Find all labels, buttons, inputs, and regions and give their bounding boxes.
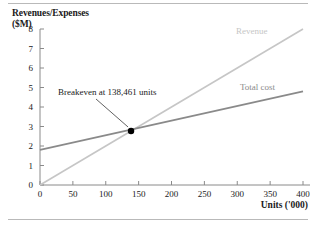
plot-area: 012345678050100150200250300350400Revenue… (0, 0, 316, 230)
breakeven-annotation-label: Breakeven at 138,461 units (58, 87, 157, 97)
y-axis-tick-label: 7 (29, 44, 34, 54)
x-axis-tick-label: 0 (38, 189, 43, 199)
y-axis-tick-label: 6 (29, 63, 34, 73)
y-axis-tick-label: 4 (29, 102, 34, 112)
x-axis-tick-label: 50 (68, 189, 78, 199)
series-label-revenue: Revenue (236, 26, 268, 36)
y-axis-tick-label: 1 (29, 161, 34, 171)
x-axis-tick-label: 300 (231, 189, 245, 199)
x-axis-tick-label: 250 (198, 189, 212, 199)
x-axis-tick-label: 100 (99, 189, 113, 199)
x-axis-tick-label: 200 (165, 189, 179, 199)
y-axis-tick-label: 0 (29, 180, 34, 190)
series-line-total-cost (40, 91, 303, 149)
series-label-total-cost: Total cost (240, 82, 276, 92)
x-axis-tick-label: 350 (263, 189, 277, 199)
series-line-revenue (40, 29, 303, 185)
breakeven-point-marker (128, 128, 134, 134)
y-axis-tick-label: 8 (29, 24, 34, 34)
y-axis-tick-label: 2 (29, 141, 34, 151)
breakeven-chart-figure: Revenues/Expenses ($M) Units ('000) 0123… (0, 0, 316, 230)
x-axis-tick-label: 150 (132, 189, 146, 199)
y-axis-tick-label: 5 (29, 83, 34, 93)
y-axis-tick-label: 3 (29, 122, 34, 132)
breakeven-annotation-leader-line (96, 99, 128, 127)
x-axis-tick-label: 400 (296, 189, 310, 199)
